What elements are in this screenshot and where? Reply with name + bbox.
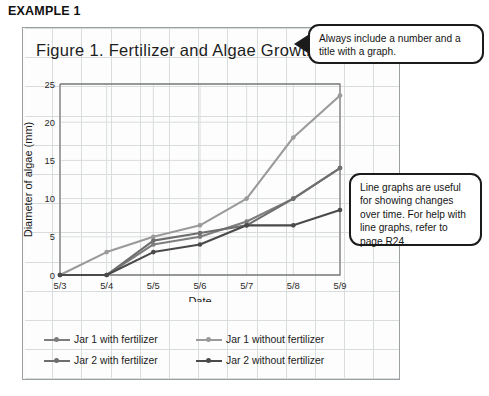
series-3-point-1 [104,273,109,278]
y-axis-title: Diameter of algae (mm) [22,122,34,238]
y-tick-label: 25 [45,79,55,90]
series-2-point-3 [198,231,203,236]
chart-title: Figure 1. Fertilizer and Algae Growth [36,41,316,60]
series-1-point-6 [338,93,343,98]
series-3-point-2 [151,250,156,255]
y-tick-label: 20 [45,117,55,128]
callout-line-graph-advice-text: Line graphs are useful for showing chang… [360,182,466,247]
x-tick-label: 5/9 [333,280,346,291]
series-2-point-5 [291,196,296,201]
x-axis-title: Date [188,295,211,302]
x-tick-label: 5/4 [100,280,113,291]
x-tick-label: 5/3 [53,280,66,291]
series-3-point-0 [58,273,63,278]
y-tick-label: 5 [50,231,55,242]
series-2-point-6 [338,166,343,171]
chart-legend: Jar 1 with fertilizer Jar 1 without fert… [44,329,344,371]
example-heading: EXAMPLE 1 [8,4,81,18]
series-1-point-1 [104,250,109,255]
y-tick-label: 10 [45,193,55,204]
x-tick-label: 5/5 [147,280,160,291]
legend-line-icon [44,356,70,366]
series-1-point-3 [198,223,203,228]
series-3-point-5 [291,223,296,228]
legend-line-icon [44,335,70,345]
legend-label: Jar 2 with fertilizer [74,355,158,366]
series-3-point-3 [198,242,203,247]
legend-label: Jar 2 without fertilizer [226,355,324,366]
y-tick-label: 0 [50,270,55,281]
legend-item-jar2-with-fertilizer[interactable]: Jar 2 with fertilizer [44,350,196,371]
legend-line-icon [196,356,222,366]
x-tick-label: 5/6 [193,280,206,291]
legend-item-jar1-with-fertilizer[interactable]: Jar 1 with fertilizer [44,329,196,350]
x-tick-label: 5/8 [287,280,300,291]
callout-arrow-icon [294,35,308,53]
line-chart: 05101520255/35/45/55/65/75/85/9DateDiame… [22,72,352,302]
series-3-point-6 [338,208,343,213]
series-1-point-4 [244,196,249,201]
callout-title-advice-text: Always include a number and a title with… [319,33,461,57]
legend-label: Jar 1 without fertilizer [226,334,324,345]
callout-title-advice: Always include a number and a title with… [308,24,484,64]
legend-label: Jar 1 with fertilizer [74,334,158,345]
x-tick-label: 5/7 [240,280,253,291]
legend-line-icon [196,335,222,345]
series-3-point-4 [244,223,249,228]
y-tick-label: 15 [45,155,55,166]
series-1-point-5 [291,135,296,140]
series-2-point-2 [151,238,156,243]
legend-item-jar2-without-fertilizer[interactable]: Jar 2 without fertilizer [196,350,348,371]
callout-line-graph-advice: Line graphs are useful for showing chang… [349,173,482,246]
chart-canvas: 05101520255/35/45/55/65/75/85/9DateDiame… [22,72,352,302]
legend-item-jar1-without-fertilizer[interactable]: Jar 1 without fertilizer [196,329,348,350]
